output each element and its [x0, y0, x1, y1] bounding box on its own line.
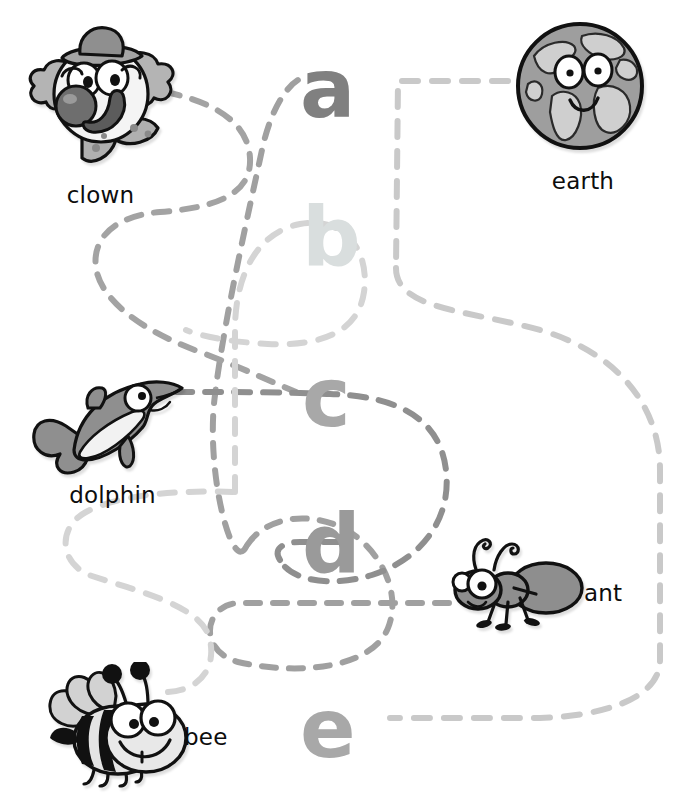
letter-d[interactable]: d [302, 503, 361, 585]
picture-label-clown: clown [18, 182, 183, 208]
picture-card-ant[interactable]: ant [448, 528, 658, 638]
letter-c[interactable]: c [302, 357, 351, 439]
picture-label-bee: bee [184, 724, 228, 750]
picture-card-dolphin[interactable]: dolphin [30, 354, 195, 508]
letter-a[interactable]: a [300, 48, 355, 130]
path-earth-to-e[interactable] [396, 81, 508, 268]
earth-globe-icon [508, 14, 658, 168]
picture-card-clown[interactable]: clown [18, 16, 183, 208]
letter-b[interactable]: b [302, 196, 361, 278]
ant-icon [448, 528, 588, 644]
picture-card-bee[interactable]: bee [42, 662, 262, 792]
worksheet-page: a b c d e [0, 0, 682, 810]
picture-label-ant: ant [584, 580, 622, 606]
picture-card-earth[interactable]: earth [508, 14, 658, 194]
dolphin-icon [30, 354, 195, 488]
letter-e[interactable]: e [300, 688, 356, 770]
path-ant-to-a-upper[interactable] [213, 80, 298, 552]
bee-icon [42, 662, 202, 792]
clown-face-icon [18, 16, 183, 180]
picture-label-earth: earth [508, 168, 658, 194]
path-earth-to-e-sweep[interactable] [390, 268, 660, 718]
